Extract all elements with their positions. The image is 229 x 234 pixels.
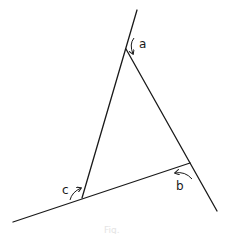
angle-a-arc bbox=[131, 38, 134, 54]
diagram-canvas: a b c Fig. bbox=[0, 0, 229, 234]
figure-caption: Fig. bbox=[104, 225, 120, 234]
angle-a-label: a bbox=[139, 37, 146, 51]
triangle-diagram: a b c Fig. bbox=[0, 0, 229, 234]
base-extended-line bbox=[13, 163, 190, 222]
angle-c-arc bbox=[70, 188, 81, 200]
right-side-extended-line bbox=[126, 49, 217, 211]
angle-b-label: b bbox=[176, 179, 184, 193]
left-side-extended-line bbox=[82, 10, 137, 198]
angle-c-label: c bbox=[62, 183, 69, 197]
